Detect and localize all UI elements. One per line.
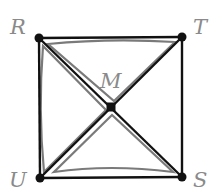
segment-RT	[39, 37, 182, 38]
point-R	[35, 34, 44, 43]
point-M	[107, 103, 116, 112]
point-S	[178, 173, 187, 182]
label-M: M	[99, 69, 122, 93]
label-R: R	[9, 15, 26, 39]
label-T: T	[193, 15, 209, 39]
segment-UR	[39, 38, 40, 178]
label-U: U	[9, 168, 28, 190]
label-S: S	[193, 168, 207, 190]
point-U	[36, 174, 45, 183]
square-diagonals-diagram: R T S U M	[0, 0, 224, 190]
segment-SU	[40, 177, 182, 178]
point-T	[178, 33, 187, 42]
